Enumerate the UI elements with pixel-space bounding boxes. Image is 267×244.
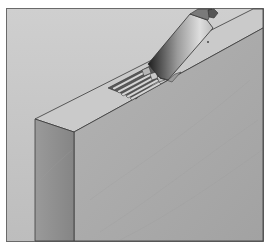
door-left-face [35, 119, 74, 241]
illustration-frame [0, 0, 267, 244]
chisel-highlight-dot [207, 41, 209, 43]
door-chisel-illustration [0, 0, 267, 244]
